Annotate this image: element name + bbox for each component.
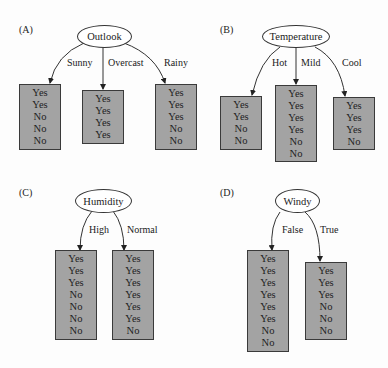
leaf-value: No [320,301,333,313]
leaf-value: Yes [95,105,110,117]
leaf-value: No [348,136,361,148]
leaf-value: Yes [95,129,110,141]
leaf-false: Yes Yes Yes Yes Yes Yes No No [247,250,289,352]
leaf-value: Yes [260,277,275,289]
leaf-value: No [235,135,248,147]
leaf-value: Yes [168,111,183,123]
leaf-value: Yes [125,301,140,313]
leaf-value: Yes [125,289,140,301]
leaf-value: Yes [68,265,83,277]
edge-label-overcast: Overcast [108,57,144,68]
leaf-value: No [290,136,303,148]
leaf-cool: Yes Yes Yes No [333,97,375,150]
leaf-value: No [262,337,275,349]
edge-label-false: False [282,224,303,235]
leaf-value: Yes [233,111,248,123]
edge-label-true: True [320,224,339,235]
edge-label-high: High [89,224,109,235]
edge-label-hot: Hot [272,57,287,68]
leaf-sunny: Yes Yes No No No [19,84,61,150]
edge-cool [315,47,345,96]
leaf-mild: Yes Yes Yes Yes No No [275,85,317,162]
leaf-value: No [320,325,333,337]
node-windy: Windy [275,189,320,213]
leaf-value: No [262,325,275,337]
leaf-value: No [170,123,183,135]
edge-true [305,212,320,261]
leaf-value: No [34,111,47,123]
leaf-value: Yes [68,253,83,265]
leaf-value: Yes [125,265,140,277]
leaf-value: Yes [95,117,110,129]
leaf-value: Yes [125,277,140,289]
leaf-value: Yes [288,100,303,112]
leaf-value: Yes [288,112,303,124]
leaf-value: Yes [346,100,361,112]
leaf-normal: Yes Yes Yes Yes Yes Yes No [112,250,154,340]
leaf-value: Yes [68,277,83,289]
leaf-value: No [170,135,183,147]
leaf-high: Yes Yes Yes No No No No [55,250,97,340]
node-outlook: Outlook [77,25,132,48]
edge-label-normal: Normal [127,224,158,235]
panel-label-c: (C) [19,187,32,198]
leaf-value: Yes [260,301,275,313]
leaf-value: Yes [318,277,333,289]
leaf-value: No [70,313,83,325]
leaf-value: No [34,123,47,135]
leaf-value: No [290,148,303,160]
leaf-value: No [70,301,83,313]
leaf-value: No [70,289,83,301]
node-temperature: Temperature [262,25,330,48]
leaf-value: Yes [260,289,275,301]
edge-normal [113,211,124,250]
leaf-value: Yes [32,87,47,99]
leaf-value: Yes [125,253,140,265]
leaf-value: Yes [288,124,303,136]
panel-label-d: (D) [220,187,234,198]
leaf-value: Yes [168,99,183,111]
leaf-value: Yes [346,124,361,136]
leaf-value: Yes [288,88,303,100]
leaf-value: No [34,135,47,147]
node-humidity: Humidity [75,189,132,213]
edge-false [272,212,280,250]
leaf-value: No [235,123,248,135]
leaf-value: Yes [32,99,47,111]
panel-label-a: (A) [19,24,33,35]
leaf-value: Yes [260,253,275,265]
leaf-value: Yes [260,313,275,325]
edge-label-mild: Mild [301,57,320,68]
leaf-value: Yes [125,313,140,325]
leaf-value: Yes [168,87,183,99]
leaf-hot: Yes Yes No No [220,96,262,150]
leaf-rainy: Yes Yes Yes No No [155,84,197,150]
leaf-value: Yes [318,289,333,301]
leaf-overcast: Yes Yes Yes Yes [82,90,124,144]
leaf-value: Yes [95,93,110,105]
panel-label-b: (B) [220,24,233,35]
leaf-value: Yes [318,265,333,277]
edge-label-rainy: Rainy [164,57,188,68]
edge-label-cool: Cool [342,57,361,68]
leaf-value: No [127,325,140,337]
leaf-true: Yes Yes Yes No No No [305,262,347,340]
leaf-value: Yes [233,99,248,111]
leaf-value: Yes [260,265,275,277]
leaf-value: No [70,325,83,337]
leaf-value: No [320,313,333,325]
edge-label-sunny: Sunny [67,57,93,68]
leaf-value: Yes [346,112,361,124]
